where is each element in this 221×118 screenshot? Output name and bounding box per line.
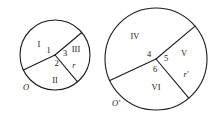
right-sector-label-vi: VI xyxy=(152,82,161,92)
right-angle-label-4: 4 xyxy=(147,49,152,59)
left-radius-label-r: r xyxy=(72,60,76,70)
left-center-label-o: O xyxy=(23,82,29,92)
left-sector-label-iii: III xyxy=(72,44,81,54)
right-radius-label-r-prime: r' xyxy=(183,69,188,79)
left-radius-lower-left xyxy=(23,55,55,70)
left-angle-label-1: 1 xyxy=(46,45,50,55)
right-radius-upper-right xyxy=(156,26,195,59)
left-sector-label-i: I xyxy=(38,39,41,49)
right-sector-label-iv: IV xyxy=(131,31,141,41)
right-center-label-o-prime: O' xyxy=(112,98,120,108)
right-radius-lower-left xyxy=(110,59,156,81)
left-sector-label-ii: II xyxy=(52,75,58,85)
left-angle-label-3: 3 xyxy=(63,48,67,58)
right-sector-label-v: V xyxy=(181,48,188,58)
right-angle-label-5: 5 xyxy=(164,53,168,63)
right-circle-group: IV V VI 4 5 6 r' O' xyxy=(105,8,207,110)
left-angle-label-2: 2 xyxy=(54,58,58,68)
left-circle-group: I II III 1 2 3 r O xyxy=(20,20,90,92)
right-angle-label-6: 6 xyxy=(153,64,157,74)
geometry-figure: I II III 1 2 3 r O IV V VI 4 5 6 r' O' xyxy=(0,0,221,118)
